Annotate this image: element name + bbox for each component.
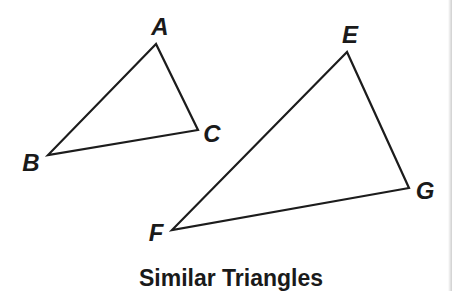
vertex-label-b: B (22, 149, 39, 176)
triangle-abc: A B C (22, 13, 221, 176)
similar-triangles-figure: A B C E F G Similar Triangles (0, 0, 452, 291)
vertex-label-c: C (203, 120, 221, 147)
triangle-abc-outline (48, 44, 198, 155)
triangle-efg: E F G (149, 21, 435, 246)
vertex-label-f: F (149, 219, 165, 246)
diagram-page: A B C E F G Similar Triangles (0, 0, 452, 291)
figure-caption: Similar Triangles (139, 265, 323, 291)
vertex-label-a: A (150, 13, 168, 40)
vertex-label-g: G (416, 177, 435, 204)
vertex-label-e: E (342, 21, 359, 48)
